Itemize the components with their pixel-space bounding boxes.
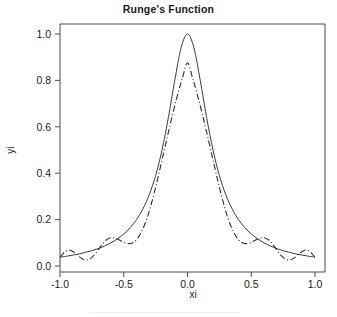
x-tick-label: 0.5 bbox=[244, 278, 259, 290]
x-tick-label: -0.5 bbox=[115, 278, 133, 290]
plot-frame bbox=[60, 24, 325, 272]
x-axis-title: xi bbox=[189, 289, 196, 300]
series-polynomial-interpolant bbox=[60, 63, 315, 260]
x-tick-label: 1.0 bbox=[308, 278, 323, 290]
y-axis-title: yi bbox=[5, 146, 16, 153]
y-tick-label: 0.4 bbox=[36, 167, 51, 179]
chart-root: Runge's Function 0.00.20.40.60.81.0 -1.0… bbox=[0, 0, 337, 317]
y-tick-label: 0.6 bbox=[36, 121, 51, 133]
y-tick-label: 0.0 bbox=[36, 260, 51, 272]
y-axis-tick-labels: 0.00.20.40.60.81.0 bbox=[36, 28, 51, 272]
plot-frame-border bbox=[60, 24, 325, 272]
y-tick-label: 0.2 bbox=[36, 213, 51, 225]
y-tick-label: 0.8 bbox=[36, 74, 51, 86]
x-axis-tick-labels: -1.0-0.50.00.51.0 bbox=[51, 278, 322, 290]
y-axis-ticks bbox=[55, 34, 60, 266]
series-runge-function bbox=[60, 34, 315, 257]
y-tick-label: 1.0 bbox=[36, 28, 51, 40]
page-edge-artifact bbox=[90, 312, 240, 313]
plot-canvas: 0.00.20.40.60.81.0 -1.0-0.50.00.51.0 xi … bbox=[0, 0, 337, 317]
x-axis-ticks bbox=[60, 272, 315, 277]
data-series-group bbox=[60, 34, 315, 260]
x-tick-label: -1.0 bbox=[51, 278, 69, 290]
